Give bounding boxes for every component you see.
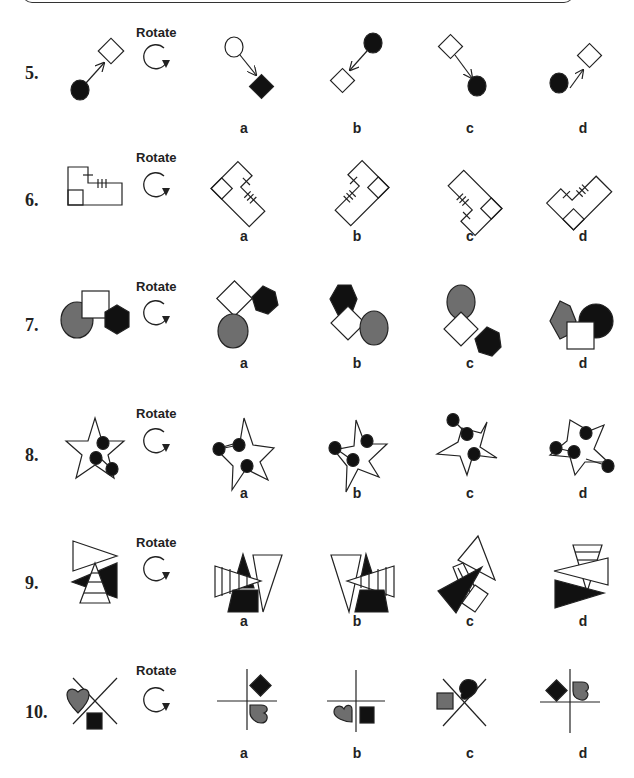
q8-option-c-figure [437, 414, 497, 476]
q5-option-b-figure [330, 33, 382, 93]
q6-option-d-figure [547, 165, 612, 230]
q5-option-c-figure [438, 34, 486, 96]
rotate-clockwise-icon [144, 429, 170, 453]
q10-option-b-figure [327, 670, 385, 732]
q6-option-b-figure [324, 161, 389, 226]
q7-option-b-figure [330, 285, 388, 345]
q9-option-b-figure [331, 554, 394, 612]
q9-option-d-figure [554, 545, 608, 608]
q9-option-a-figure [215, 554, 282, 612]
q6-option-a-figure [211, 162, 276, 227]
q8-option-a-figure [213, 418, 274, 490]
q5-option-d-figure [550, 43, 602, 93]
q5-option-a-figure [225, 37, 274, 99]
rotate-clockwise-icon [144, 173, 170, 197]
q9-option-c-figure [438, 536, 495, 613]
q10-stem-figure [67, 678, 117, 729]
q8-option-d-figure [550, 420, 614, 475]
q10-option-a-figure [217, 669, 277, 730]
q9-stem-figure [72, 541, 117, 603]
q7-option-c-figure [444, 285, 501, 356]
q5-stem-figure [71, 38, 124, 100]
q8-option-b-figure [329, 420, 387, 492]
rotate-clockwise-icon [144, 557, 170, 581]
q10-option-d-figure [540, 669, 600, 733]
q6-option-c-figure [437, 170, 502, 235]
rotate-clockwise-icon [144, 45, 170, 69]
q10-option-c-figure [437, 679, 486, 726]
rotate-clockwise-icon [144, 301, 170, 325]
q7-stem-figure [61, 291, 129, 338]
q6-stem-figure [68, 167, 122, 205]
rotate-clockwise-icon [144, 688, 170, 712]
q8-stem-figure [66, 418, 124, 478]
q7-option-d-figure [550, 301, 613, 349]
q7-option-a-figure [217, 281, 278, 348]
figures-layer [0, 0, 634, 778]
